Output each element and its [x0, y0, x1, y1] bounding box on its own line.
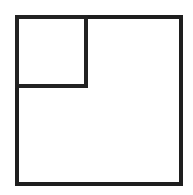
inner-square — [17, 17, 86, 86]
outer-square — [17, 17, 181, 184]
figure-canvas — [0, 0, 193, 195]
nested-squares-diagram — [0, 0, 193, 195]
